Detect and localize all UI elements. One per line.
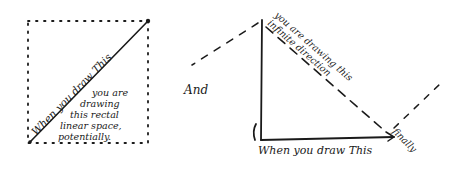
left-note-line-4: linear space,	[60, 120, 122, 131]
hypotenuse-outer-label: you are drawing this	[272, 9, 355, 83]
triangle-dashed-hypotenuse	[266, 27, 386, 132]
triangle-base	[261, 137, 394, 140]
corner-bracket	[254, 124, 256, 140]
left-dashed-extension	[192, 23, 258, 65]
right-dashed-extension	[394, 84, 440, 128]
triangle-vertical-side	[261, 20, 262, 140]
corner-label: finally	[390, 125, 420, 155]
and-label: And	[183, 83, 208, 97]
left-note-line-1: you are	[91, 87, 128, 98]
left-note-line-2: drawing	[80, 98, 120, 109]
left-note-line-5: potentially.	[58, 131, 111, 142]
diagonal-end-dot	[146, 19, 150, 23]
base-label: When you draw This	[258, 144, 373, 157]
sketch-canvas: When you draw This you are drawing this …	[0, 0, 461, 186]
left-note-line-3: this rectal	[70, 109, 119, 120]
diagonal-start-dot	[28, 140, 32, 144]
